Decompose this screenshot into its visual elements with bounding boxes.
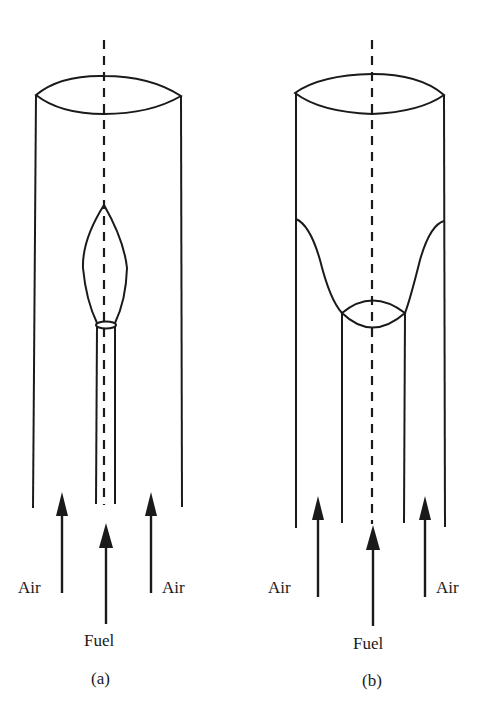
arrowhead-fuel-b <box>366 525 380 550</box>
diagram-canvas <box>0 0 481 718</box>
fuel-tube-right-b <box>404 313 405 523</box>
duct-wall-right-b <box>444 95 445 527</box>
duct-wall-right-a <box>181 96 182 507</box>
label-air-right-a: Air <box>162 579 185 596</box>
panel-b <box>295 40 445 626</box>
caption-b: (b) <box>362 672 382 689</box>
arrowhead-air-left-b <box>312 496 324 520</box>
label-fuel-a: Fuel <box>84 632 114 649</box>
label-air-left-b: Air <box>268 579 291 596</box>
fuel-tube-left-a <box>96 326 97 504</box>
arrowhead-fuel-a <box>99 523 113 548</box>
label-fuel-b: Fuel <box>353 635 383 652</box>
fuel-tube-mouth-b <box>342 301 405 328</box>
flame-b <box>296 219 444 313</box>
duct-top-ellipse-b <box>295 74 444 114</box>
arrowhead-air-left-a <box>56 492 68 516</box>
fuel-tube-mouth-a <box>96 322 116 329</box>
label-air-left-a: Air <box>18 579 41 596</box>
label-air-right-b: Air <box>436 579 459 596</box>
arrowhead-air-right-a <box>145 492 157 516</box>
duct-top-ellipse-a <box>36 76 181 114</box>
caption-a: (a) <box>91 670 110 687</box>
panel-a <box>33 40 182 624</box>
duct-wall-left-a <box>33 95 36 508</box>
arrowhead-air-right-b <box>419 496 431 520</box>
